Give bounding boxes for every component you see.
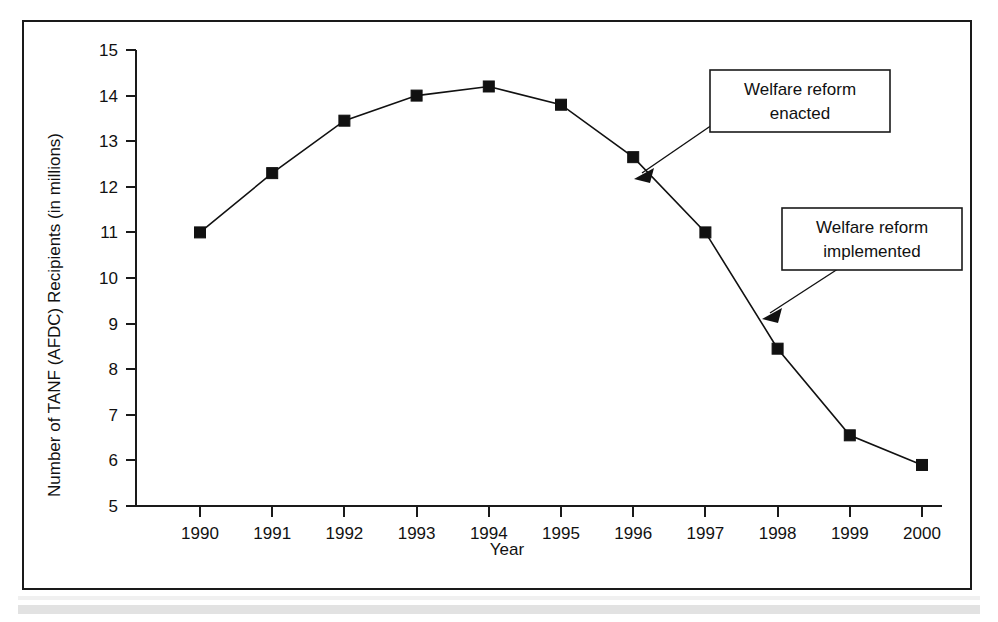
y-tick-label: 9	[109, 315, 118, 334]
annotation-enacted-arrowhead	[634, 168, 654, 183]
x-tick-label: 1997	[686, 524, 724, 543]
x-tick-label: 1991	[253, 524, 291, 543]
x-tick-label: 1995	[542, 524, 580, 543]
annotation-enacted-line2: enacted	[770, 104, 831, 123]
data-point-marker[interactable]	[411, 90, 422, 101]
data-point-marker[interactable]	[844, 430, 855, 441]
footer-band-light	[18, 596, 980, 600]
x-tick-label: 1993	[398, 524, 436, 543]
data-point-marker[interactable]	[339, 115, 350, 126]
y-tick-label: 12	[99, 178, 118, 197]
data-point-marker[interactable]	[556, 99, 567, 110]
y-tick-label: 15	[99, 41, 118, 60]
series-line-tanf-recipients	[200, 86, 922, 464]
y-tick-label: 10	[99, 269, 118, 288]
y-tick-label: 8	[109, 360, 118, 379]
annotation-enacted-line1: Welfare reform	[744, 80, 856, 99]
y-axis-title: Number of TANF (AFDC) Recipients (in mil…	[45, 133, 64, 497]
annotation-welfare-reform-implemented[interactable]: Welfare reform implemented	[762, 208, 962, 323]
data-point-marker[interactable]	[195, 227, 206, 238]
footer-band	[18, 605, 980, 614]
series-markers	[195, 81, 928, 470]
annotation-welfare-reform-enacted[interactable]: Welfare reform enacted	[634, 70, 890, 183]
line-chart: Number of TANF (AFDC) Recipients (in mil…	[22, 20, 972, 590]
annotation-enacted-leader-line	[642, 125, 712, 173]
data-point-marker[interactable]	[700, 227, 711, 238]
data-point-marker[interactable]	[772, 343, 783, 354]
y-tick-label: 13	[99, 132, 118, 151]
data-point-marker[interactable]	[483, 81, 494, 92]
x-tick-label: 2000	[903, 524, 941, 543]
x-tick-label: 1999	[831, 524, 869, 543]
annotation-implemented-arrowhead	[762, 308, 782, 323]
x-tick-label: 1994	[470, 524, 508, 543]
x-tick-label: 1998	[759, 524, 797, 543]
y-tick-label: 11	[100, 223, 118, 242]
x-tick-label: 1992	[325, 524, 363, 543]
data-point-marker[interactable]	[628, 152, 639, 163]
data-point-marker[interactable]	[917, 459, 928, 470]
annotation-implemented-leader-line	[770, 265, 844, 313]
y-tick-label: 5	[109, 497, 118, 516]
y-tick-label: 7	[109, 406, 118, 425]
annotation-implemented-line1: Welfare reform	[816, 218, 928, 237]
x-axis-ticks: 1990199119921993199419951996199719981999…	[181, 506, 941, 543]
data-point-marker[interactable]	[267, 168, 278, 179]
x-tick-label: 1996	[614, 524, 652, 543]
annotation-implemented-line2: implemented	[823, 242, 920, 261]
y-tick-label: 14	[99, 87, 118, 106]
x-tick-label: 1990	[181, 524, 219, 543]
figure-root: Number of TANF (AFDC) Recipients (in mil…	[0, 0, 998, 622]
y-tick-label: 6	[109, 451, 118, 470]
y-axis-ticks: 15141312111098765	[99, 41, 136, 516]
